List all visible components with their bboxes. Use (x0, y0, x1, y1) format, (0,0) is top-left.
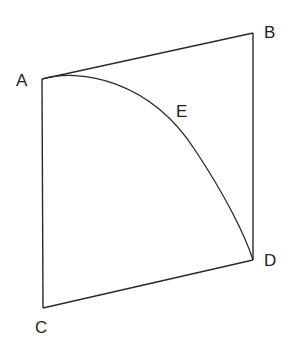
label-b: B (264, 23, 275, 42)
label-a: A (16, 71, 28, 90)
label-c: C (35, 318, 47, 337)
segment-ca (42, 79, 43, 308)
arc-aed (42, 75, 253, 260)
label-d: D (264, 251, 276, 270)
segment-ab (42, 33, 253, 79)
quadrilateral-diagram: A B C D E (0, 0, 295, 349)
segment-dc (43, 260, 253, 308)
label-e: E (176, 102, 187, 121)
